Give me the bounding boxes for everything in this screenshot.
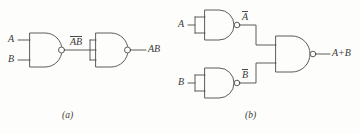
panel-b-output-label: A+B (332, 48, 351, 58)
logic-gate-figure: A B AB AB (a) A B A B A+B (b) (0, 0, 360, 134)
panel-a-caption: (a) (62, 110, 73, 120)
panel-b-input-label-b: B (178, 77, 184, 87)
panel-b-gate-output (276, 36, 316, 72)
panel-b-wire-abar-route (240, 25, 276, 45)
panel-b-input-label-a: A (178, 19, 184, 29)
panel-b-caption: (b) (245, 110, 256, 120)
panel-b-gate-bottom (205, 68, 240, 98)
panel-a-input-label-a: A (8, 34, 14, 44)
panel-b-gate-top (205, 10, 240, 40)
panel-b-intermediate-label-abar: A (242, 11, 248, 23)
panel-a-gate-1 (30, 33, 65, 67)
panel-a-intermediate-text: AB (70, 36, 82, 48)
panel-a-intermediate-label: AB (70, 36, 82, 48)
panel-a-output-label: AB (148, 44, 160, 54)
panel-a-input-label-b: B (8, 54, 14, 64)
panel-b-intermediate-label-bbar: B (242, 69, 248, 81)
panel-b-intermediate-bbar-text: B (242, 69, 248, 81)
panel-b-intermediate-abar-text: A (242, 11, 248, 23)
panel-a-gate-2 (96, 33, 131, 67)
